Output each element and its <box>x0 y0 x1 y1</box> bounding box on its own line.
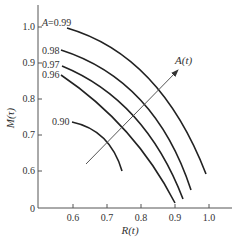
origin-label: 0 <box>30 203 35 214</box>
x-tick-label: 0.8 <box>135 212 148 223</box>
y-tick-label: 0.7 <box>23 129 36 140</box>
curve-labels: A=0.99 0.98 0.97 0.96 0.90 <box>41 17 71 127</box>
curve-a-0.98 <box>61 50 191 190</box>
curve-a-0.90 <box>72 122 122 171</box>
x-tick-label: 0.9 <box>169 212 182 223</box>
x-tick-label: 0.7 <box>101 212 114 223</box>
x-axis-title: R(t) <box>120 224 138 237</box>
curve-a-0.99 <box>67 28 206 174</box>
label-0.90: 0.90 <box>52 116 70 127</box>
label-0.96: 0.96 <box>42 69 60 80</box>
a-t-arrow <box>86 70 178 164</box>
y-ticks: 1.0 0.9 0.8 0.7 0.6 0 <box>23 21 43 214</box>
label-a-0.99: A=0.99 <box>41 17 71 28</box>
x-tick-label: 1.0 <box>203 212 216 223</box>
x-ticks: 0.6 0.7 0.8 0.9 1.0 <box>67 204 216 223</box>
y-tick-label: 1.0 <box>23 21 36 32</box>
chart: 1.0 0.9 0.8 0.7 0.6 0 0.6 0.7 0.8 0.9 1.… <box>0 0 241 241</box>
x-tick-label: 0.6 <box>67 212 80 223</box>
curve-a-0.96 <box>61 75 175 203</box>
y-tick-label: 0.9 <box>23 57 36 68</box>
a-t-label: A(t) <box>174 54 192 67</box>
label-0.98: 0.98 <box>42 45 60 56</box>
y-tick-label: 0.8 <box>23 93 36 104</box>
y-tick-label: 0.6 <box>23 165 36 176</box>
y-axis-title: M(τ) <box>4 107 17 129</box>
